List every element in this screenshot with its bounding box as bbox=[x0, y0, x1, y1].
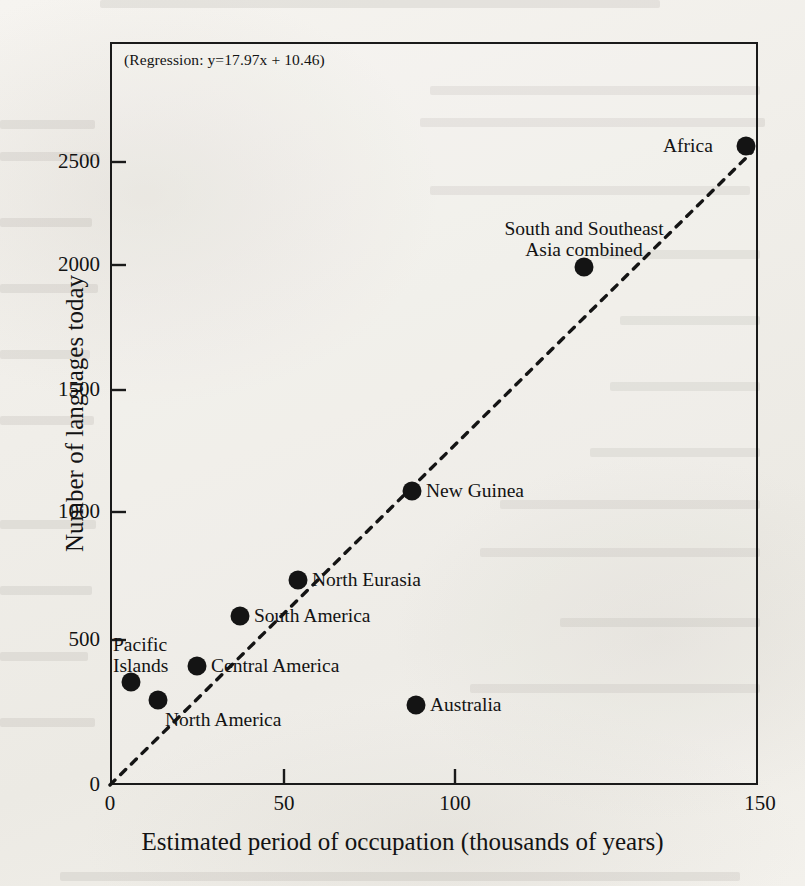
label-north-eurasia: North Eurasia bbox=[312, 569, 421, 590]
label-australia: Australia bbox=[430, 694, 501, 715]
xtick-label-50: 50 bbox=[259, 792, 309, 815]
label-south-america: South America bbox=[254, 605, 370, 626]
label-pacific-line2: Islands bbox=[113, 655, 193, 676]
xtick-label-150: 150 bbox=[735, 792, 785, 815]
datapoint-africa bbox=[737, 137, 756, 156]
regression-annotation: (Regression: y=17.97x + 10.46) bbox=[124, 52, 325, 69]
xtick-label-100: 100 bbox=[430, 792, 480, 815]
plot-canvas bbox=[0, 0, 805, 886]
xtick-label-0: 0 bbox=[85, 792, 135, 815]
datapoint-australia bbox=[407, 696, 426, 715]
label-central-america: Central America bbox=[211, 655, 339, 676]
chart-page: (Regression: y=17.97x + 10.46) Africa So… bbox=[0, 0, 805, 886]
label-pacific-islands: Pacific Islands bbox=[113, 634, 193, 677]
label-sea-line2: Asia combined bbox=[454, 239, 714, 260]
label-africa: Africa bbox=[663, 135, 713, 156]
label-sea-line1: South and Southeast bbox=[454, 218, 714, 239]
datapoint-north-america bbox=[149, 691, 168, 710]
y-axis-title: Number of languages today bbox=[61, 134, 88, 694]
datapoint-north-eurasia bbox=[289, 571, 308, 590]
label-pacific-line1: Pacific bbox=[113, 634, 193, 655]
x-axis-title: Estimated period of occupation (thousand… bbox=[0, 828, 805, 855]
label-new-guinea: New Guinea bbox=[426, 480, 524, 501]
label-north-america: North America bbox=[165, 709, 281, 730]
label-south-southeast-asia: South and Southeast Asia combined bbox=[454, 218, 714, 261]
datapoint-new-guinea bbox=[403, 482, 422, 501]
datapoint-south-america bbox=[231, 607, 250, 626]
